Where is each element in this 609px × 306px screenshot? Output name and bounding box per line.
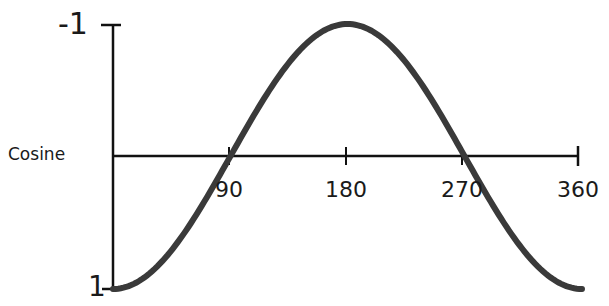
- x-tick-label-180: 180: [325, 176, 367, 204]
- x-tick-label-270: 270: [441, 176, 483, 204]
- x-tick-label-360: 360: [557, 176, 599, 204]
- y-tick-label-bottom: 1: [88, 270, 106, 304]
- series-label: Cosine: [8, 143, 65, 165]
- y-tick-label-top: -1: [58, 6, 88, 42]
- cosine-chart: [0, 0, 609, 306]
- x-tick-label-90: 90: [215, 176, 243, 204]
